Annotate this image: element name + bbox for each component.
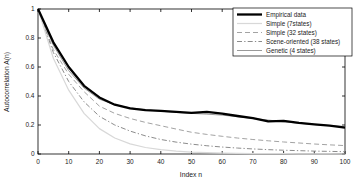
x-tick-label: 0	[36, 158, 40, 165]
y-tick-label: 0.4	[25, 92, 34, 99]
x-tick-label: 80	[280, 158, 288, 165]
x-tick-label: 60	[219, 158, 227, 165]
x-axis-label: Index n	[180, 171, 203, 178]
y-axis-label: Autocorrelation A(n)	[3, 52, 11, 112]
x-tick-label: 20	[96, 158, 104, 165]
y-tick-label: 0	[31, 150, 35, 157]
x-tick-label: 10	[65, 158, 73, 165]
x-tick-label: 40	[157, 158, 165, 165]
x-tick-label: 30	[126, 158, 134, 165]
x-tick-label: 70	[249, 158, 257, 165]
autocorrelation-chart: 010203040506070809010000.20.40.60.81Empi…	[0, 0, 358, 185]
autocorrelation-figure: 010203040506070809010000.20.40.60.81Empi…	[0, 0, 358, 185]
y-tick-label: 0.8	[25, 34, 34, 41]
y-tick-label: 0.6	[25, 63, 34, 70]
legend-label-scene-oriented-38-states: Scene-oriented (38 states)	[266, 38, 340, 46]
x-tick-label: 90	[311, 158, 319, 165]
legend-label-empirical-data: Empirical data	[266, 11, 306, 19]
y-tick-label: 1	[31, 5, 35, 12]
x-tick-label: 50	[188, 158, 196, 165]
legend-label-genetic-4-states: Genetic (4 states)	[266, 47, 316, 55]
x-tick-label: 100	[340, 158, 351, 165]
y-tick-label: 0.2	[25, 121, 34, 128]
legend-label-simple-32-states: Simple (32 states)	[266, 29, 317, 37]
legend-label-simple-7states: Simple (7states)	[266, 20, 312, 28]
